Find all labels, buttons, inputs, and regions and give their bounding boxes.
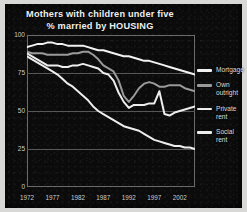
legend-swatch-icon [197,108,212,111]
legend-label: Socialrent [216,128,247,144]
legend-label: Ownoutright [216,81,247,97]
legend-label: Mortgage [216,66,247,74]
legend-item-social-rent[interactable]: Socialrent [197,128,247,144]
y-tick-label-75: 75 [9,69,25,76]
legend-item-mortgage[interactable]: Mortgage [197,66,247,74]
legend-label: Privaterent [216,105,247,121]
legend: MortgageOwnoutrightPrivaterentSocialrent [197,66,247,151]
series-lines [27,35,195,187]
x-axis-tick-labels: 1972197719821987199219972002 [27,192,195,206]
chart-title: Mothers with children under five [5,9,195,19]
legend-swatch-icon [197,84,212,87]
legend-swatch-icon [197,131,212,134]
chart-card: Mothers with children under five % marri… [5,4,242,208]
x-tick-label-1972: 1972 [15,194,39,201]
y-axis-tick-labels: 0255075100 [7,35,25,187]
legend-item-private-rent[interactable]: Privaterent [197,105,247,121]
chart-subtitle: % married by HOUSING [5,21,195,31]
plot-area [27,35,195,187]
y-tick-label-100: 100 [9,31,25,38]
y-tick-label-0: 0 [9,183,25,190]
x-tick-label-1992: 1992 [117,194,141,201]
x-tick-label-1987: 1987 [91,194,115,201]
image-frame: Mothers with children under five % marri… [0,0,247,212]
x-tick-label-1997: 1997 [142,194,166,201]
x-tick-label-1982: 1982 [66,194,90,201]
y-tick-label-50: 50 [9,107,25,114]
y-tick-label-25: 25 [9,145,25,152]
x-tick-label-1977: 1977 [40,194,64,201]
legend-swatch-icon [197,69,212,72]
x-tick-label-2002: 2002 [168,194,192,201]
legend-item-own-outright[interactable]: Ownoutright [197,81,247,97]
